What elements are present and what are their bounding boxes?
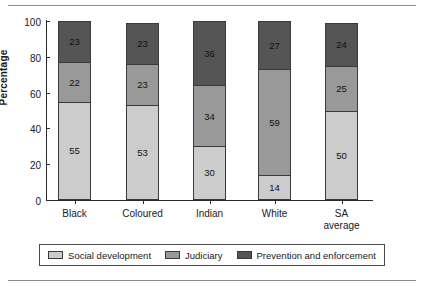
y-axis-tick-label: 40 bbox=[30, 124, 41, 135]
bar-segment-value: 34 bbox=[204, 112, 215, 122]
bar-segment[interactable]: 27 bbox=[258, 21, 291, 69]
y-axis-tick-mark bbox=[46, 164, 50, 165]
y-axis-title: Percentage bbox=[0, 33, 9, 123]
bar-segment[interactable]: 34 bbox=[193, 85, 226, 146]
bar-segment[interactable]: 50 bbox=[325, 111, 358, 201]
legend-swatch bbox=[237, 251, 252, 259]
bar-segment-value: 50 bbox=[336, 151, 347, 161]
bar-segment-value: 24 bbox=[336, 40, 347, 50]
legend-swatch bbox=[48, 251, 63, 259]
legend-label: Prevention and enforcement bbox=[257, 250, 376, 261]
y-axis-tick: 60 bbox=[30, 84, 46, 102]
bar-segment[interactable]: 25 bbox=[325, 66, 358, 111]
y-axis-tick: 40 bbox=[30, 119, 46, 137]
bar-segment[interactable]: 23 bbox=[126, 64, 159, 105]
bar-group[interactable]: 275914 bbox=[258, 21, 291, 200]
y-axis-tick-label: 80 bbox=[30, 53, 41, 64]
y-axis-tick: 20 bbox=[30, 155, 46, 173]
bar-segment[interactable]: 30 bbox=[193, 146, 226, 200]
y-axis-tick: 100 bbox=[24, 12, 46, 30]
bar-segment-value: 22 bbox=[69, 78, 80, 88]
stacked-bar-chart-figure: Percentage 100806040200 2322552323533634… bbox=[0, 0, 424, 286]
y-axis-tick-mark bbox=[46, 200, 50, 201]
page-rule-top bbox=[8, 5, 416, 6]
bar-segment-value: 23 bbox=[69, 37, 80, 47]
page-rule-bottom bbox=[8, 280, 416, 281]
y-axis-tick: 0 bbox=[35, 191, 46, 209]
x-axis-tick-mark bbox=[75, 200, 76, 204]
y-axis-tick-label: 60 bbox=[30, 89, 41, 100]
bar-segment[interactable]: 59 bbox=[258, 69, 291, 175]
bar-segment-value: 36 bbox=[204, 49, 215, 59]
bar-group[interactable]: 363430 bbox=[193, 21, 226, 200]
bar-segment[interactable]: 24 bbox=[325, 23, 358, 66]
legend-swatch bbox=[165, 251, 180, 259]
bar-segment-value: 23 bbox=[137, 39, 148, 49]
legend-label: Social development bbox=[68, 250, 151, 261]
y-axis-tick-mark bbox=[46, 57, 50, 58]
bar-segment-value: 53 bbox=[137, 148, 148, 158]
y-axis-tick-mark bbox=[46, 21, 50, 22]
chart-legend: Social developmentJudiciaryPrevention an… bbox=[39, 244, 385, 266]
x-axis-tick-mark bbox=[342, 200, 343, 204]
bar-segment[interactable]: 14 bbox=[258, 175, 291, 200]
bar-segment[interactable]: 36 bbox=[193, 21, 226, 85]
bar-segment[interactable]: 53 bbox=[126, 105, 159, 200]
bar-segment-value: 23 bbox=[137, 80, 148, 90]
bar-segment-value: 30 bbox=[204, 168, 215, 178]
y-axis-tick-label: 0 bbox=[35, 196, 41, 207]
y-axis-tick-label: 20 bbox=[30, 160, 41, 171]
legend-item[interactable]: Prevention and enforcement bbox=[237, 250, 376, 261]
bar-segment-value: 14 bbox=[269, 183, 280, 193]
legend-item[interactable]: Social development bbox=[48, 250, 151, 261]
bar-segment-value: 25 bbox=[336, 84, 347, 94]
legend-item[interactable]: Judiciary bbox=[165, 250, 223, 261]
bar-group[interactable]: 232353 bbox=[126, 23, 159, 200]
bar-segment[interactable]: 55 bbox=[58, 102, 91, 200]
bar-group[interactable]: 242550 bbox=[325, 23, 358, 200]
x-axis-tick-label: SAaverage bbox=[302, 208, 382, 231]
y-axis-tick-label: 100 bbox=[24, 17, 41, 28]
x-axis-tick-label-line2: average bbox=[323, 220, 359, 231]
x-axis-tick-mark bbox=[210, 200, 211, 204]
bar-segment[interactable]: 22 bbox=[58, 62, 91, 101]
bar-segment[interactable]: 23 bbox=[58, 21, 91, 62]
y-axis-tick: 80 bbox=[30, 48, 46, 66]
bar-segment-value: 59 bbox=[269, 118, 280, 128]
bar-group[interactable]: 232255 bbox=[58, 21, 91, 200]
x-axis-tick-mark bbox=[275, 200, 276, 204]
bar-segment-value: 27 bbox=[269, 41, 280, 51]
bar-segment-value: 55 bbox=[69, 146, 80, 156]
plot-area: 100806040200 232255232353363430275914242… bbox=[46, 21, 370, 200]
y-axis-tick-mark bbox=[46, 128, 50, 129]
legend-label: Judiciary bbox=[185, 250, 223, 261]
y-axis-tick-mark bbox=[46, 93, 50, 94]
x-axis-tick-mark bbox=[143, 200, 144, 204]
bar-segment[interactable]: 23 bbox=[126, 23, 159, 64]
